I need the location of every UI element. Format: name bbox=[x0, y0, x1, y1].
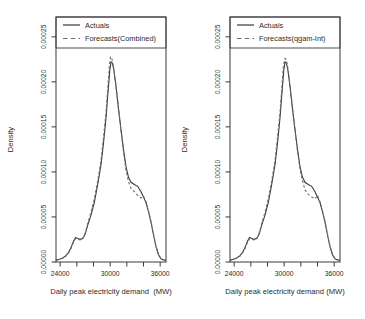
legend-box bbox=[56, 17, 166, 48]
panel-1: 2400030000360000.000000.000050.000100.00… bbox=[180, 17, 345, 296]
y-tick-label: 0.00000 bbox=[214, 250, 221, 275]
y-tick-label: 0.00005 bbox=[214, 204, 221, 229]
y-tick-label: 0.00025 bbox=[214, 24, 221, 49]
y-tick-label: 0.00000 bbox=[40, 250, 47, 275]
y-tick-label: 0.00010 bbox=[40, 159, 47, 184]
legend-label: Forecasts(Combined) bbox=[85, 34, 156, 43]
forecast-curve bbox=[230, 58, 340, 260]
x-tick-label: 24000 bbox=[51, 270, 70, 277]
legend-label: Actuals bbox=[259, 21, 284, 30]
x-axis-title: Daily peak electricity demand (MW) bbox=[225, 287, 345, 296]
y-tick-label: 0.00005 bbox=[40, 204, 47, 229]
forecast-curve bbox=[56, 57, 166, 261]
legend-box bbox=[230, 17, 340, 48]
actuals-curve bbox=[56, 62, 166, 260]
actuals-curve bbox=[230, 62, 340, 260]
x-tick-label: 30000 bbox=[275, 270, 294, 277]
panel-0: 2400030000360000.000000.000050.000100.00… bbox=[6, 17, 172, 296]
y-axis-title: Density bbox=[6, 127, 15, 153]
legend-label: Actuals bbox=[85, 21, 110, 30]
y-tick-label: 0.00010 bbox=[214, 159, 221, 184]
y-tick-label: 0.00015 bbox=[40, 114, 47, 139]
x-tick-label: 24000 bbox=[225, 270, 244, 277]
density-plots: 2400030000360000.000000.000050.000100.00… bbox=[0, 0, 365, 319]
x-axis-title: Daily peak electricity demand (MW) bbox=[50, 287, 172, 296]
x-tick-label: 36000 bbox=[151, 270, 170, 277]
y-tick-label: 0.00020 bbox=[214, 69, 221, 94]
y-tick-label: 0.00020 bbox=[40, 69, 47, 94]
x-tick-label: 36000 bbox=[325, 270, 344, 277]
legend-label: Forecasts(qgam-Int) bbox=[259, 34, 326, 43]
x-tick-label: 30000 bbox=[101, 270, 120, 277]
plot-box bbox=[230, 17, 340, 262]
y-tick-label: 0.00015 bbox=[214, 114, 221, 139]
y-axis-title: Density bbox=[180, 127, 189, 153]
figure: 2400030000360000.000000.000050.000100.00… bbox=[0, 0, 365, 319]
plot-box bbox=[56, 17, 166, 262]
y-tick-label: 0.00025 bbox=[40, 24, 47, 49]
